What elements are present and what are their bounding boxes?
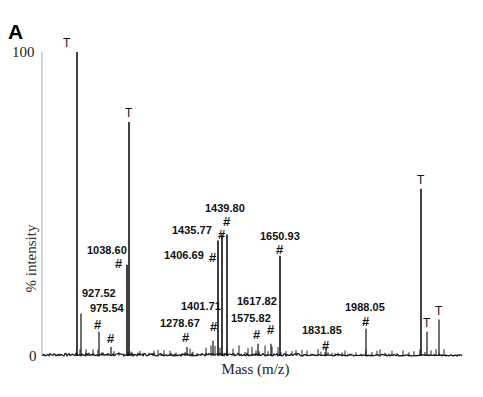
hash-marker: # xyxy=(253,327,261,342)
trypsin-marker: T xyxy=(63,36,71,50)
hash-marker: # xyxy=(182,330,190,345)
peak-mass-label: 1575.82 xyxy=(231,312,271,324)
hash-marker: # xyxy=(322,338,330,353)
hash-marker: # xyxy=(362,314,370,329)
hash-marker: # xyxy=(210,319,218,334)
hash-marker: # xyxy=(276,242,284,257)
baseline-noise xyxy=(43,345,462,356)
trypsin-marker: T xyxy=(125,106,133,120)
peak-mass-label: 975.54 xyxy=(90,302,125,314)
trypsin-marker: T xyxy=(423,316,431,330)
peak-mass-label: 1278.67 xyxy=(160,317,200,329)
peak-mass-label: 1406.69 xyxy=(164,249,204,261)
peak-mass-label: 1988.05 xyxy=(345,301,385,313)
hash-marker: # xyxy=(107,331,115,346)
peak-mass-label: 1435.77 xyxy=(172,224,212,236)
hash-marker: # xyxy=(267,322,275,337)
peak-mass-label: 1038.60 xyxy=(87,244,127,256)
hash-marker: # xyxy=(223,214,231,229)
hash-marker: # xyxy=(218,227,226,242)
hash-marker: # xyxy=(94,317,102,332)
hash-marker: # xyxy=(209,250,217,265)
peak-mass-label: 1439.80 xyxy=(205,202,245,214)
hash-marker: # xyxy=(115,256,123,271)
trypsin-marker: T xyxy=(417,173,425,187)
peak-mass-label: 1831.85 xyxy=(302,324,342,336)
peak-mass-label: 1401.71 xyxy=(181,300,221,312)
trypsin-marker: T xyxy=(435,304,443,318)
peak-mass-label: 1650.93 xyxy=(260,230,300,242)
peak-annotations: T927.52#975.54#1038.60#T1278.67#1401.71#… xyxy=(63,36,443,353)
peak-mass-label: 927.52 xyxy=(82,287,116,299)
mass-spectrum-plot: T927.52#975.54#1038.60#T1278.67#1401.71#… xyxy=(0,0,483,397)
peak-mass-label: 1617.82 xyxy=(237,295,277,307)
